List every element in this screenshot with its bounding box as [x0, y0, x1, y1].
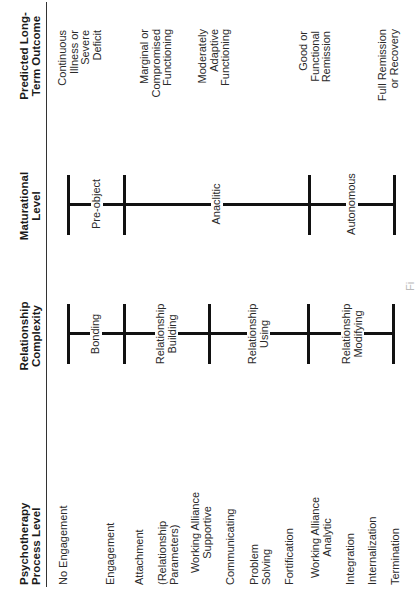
- relationship-stage-label: Relationship Using: [247, 299, 270, 369]
- header-relationship-complexity: Relationship Complexity: [18, 286, 42, 386]
- process-level-item: No Engagement: [58, 475, 70, 585]
- relationship-marker: [392, 304, 395, 364]
- maturational-marker: [393, 175, 396, 235]
- process-level-item: Problem Solving: [249, 535, 272, 585]
- process-level-item: Communicating: [225, 475, 237, 585]
- relationship-stage-label: Relationship Modifying: [341, 299, 364, 369]
- relationship-marker: [208, 304, 211, 364]
- outcome-item: Continuous Illness or Severe Deficit: [57, 30, 103, 96]
- process-level-item: Working Alliance Supportive: [190, 480, 213, 585]
- process-level-item: (Relationship Parameters): [157, 505, 180, 585]
- maturational-stage-label: Autonomous: [346, 169, 358, 239]
- process-level-item: Termination: [390, 475, 402, 585]
- process-level-item: Integration: [345, 475, 357, 585]
- outcome-item: Marginal or Compromised Functioning: [139, 29, 174, 111]
- relationship-stage-label: Bonding: [90, 304, 102, 364]
- maturational-marker: [123, 175, 126, 235]
- header-maturational-level: Maturational Level: [18, 161, 42, 251]
- outcome-item: Full Remission or Recovery: [377, 29, 400, 111]
- process-level-item: Fortification: [284, 475, 296, 585]
- relationship-marker: [307, 304, 310, 364]
- process-level-item: Working Alliance Analytic: [310, 490, 333, 585]
- header-process-level: Psychotherapy Process Level: [18, 475, 42, 585]
- figure-caption: Fi: [404, 282, 416, 291]
- process-level-item: Engagement: [105, 475, 117, 585]
- process-level-item: Internalization: [367, 475, 379, 585]
- relationship-stage-label: Relationship Building: [155, 299, 178, 369]
- header-divider: [46, 2, 47, 587]
- maturational-marker: [308, 175, 311, 235]
- relationship-marker: [67, 304, 70, 364]
- maturational-marker: [67, 175, 70, 235]
- outcome-item: Good or Functional Remission: [298, 31, 333, 101]
- outcome-item: Moderately Adaptive Functioning: [197, 29, 232, 111]
- maturational-stage-label: Pre-object: [91, 173, 103, 235]
- header-predicted-outcome: Predicted Long-Term Outcome: [18, 1, 42, 111]
- maturational-stage-label: Anaclitic: [211, 177, 223, 231]
- relationship-marker: [123, 304, 126, 364]
- diagram-page: Psychotherapy Process Level Relationship…: [0, 0, 420, 591]
- process-level-item: Attachment: [134, 475, 146, 585]
